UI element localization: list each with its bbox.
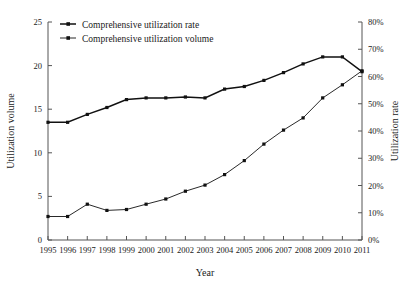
x-tick-label: 2005: [236, 245, 253, 255]
data-point: [243, 85, 246, 88]
data-point: [360, 69, 363, 72]
data-point: [145, 96, 148, 99]
data-point: [145, 203, 148, 206]
data-point: [243, 159, 246, 162]
x-tick-label: 2007: [275, 245, 292, 255]
y-tick-label-left: 10: [34, 148, 43, 158]
data-point: [223, 173, 226, 176]
data-point: [282, 129, 285, 132]
data-point: [262, 79, 265, 82]
x-tick-label: 2000: [138, 245, 155, 255]
x-tick-label: 2010: [334, 245, 351, 255]
x-tick-label: 1998: [98, 245, 115, 255]
y-tick-label-right: 0%: [368, 235, 379, 245]
x-tick-label: 2006: [255, 245, 272, 255]
data-point: [164, 197, 167, 200]
data-point: [66, 215, 69, 218]
y-tick-label-right: 40%: [368, 126, 384, 136]
data-point: [341, 55, 344, 58]
legend-marker-1: [66, 36, 70, 40]
y-tick-label-left: 20: [34, 61, 43, 71]
data-point: [105, 209, 108, 212]
data-point: [203, 184, 206, 187]
y-tick-label-left: 0: [38, 235, 42, 245]
y-tick-label-right: 50%: [368, 99, 384, 109]
x-tick-label: 2009: [314, 245, 331, 255]
x-tick-label: 2002: [177, 245, 194, 255]
data-point: [125, 98, 128, 101]
data-point: [223, 88, 226, 91]
data-point: [86, 113, 89, 116]
series-line-0: [48, 57, 362, 122]
x-tick-label: 2004: [216, 245, 234, 255]
data-point: [46, 121, 49, 124]
y-tick-label-left: 15: [34, 104, 43, 114]
series-0: [46, 55, 363, 124]
data-point: [46, 215, 49, 218]
series-1: [46, 69, 363, 218]
chart-legend: Comprehensive utilization rateComprehens…: [60, 20, 213, 44]
y-tick-label-right: 20%: [368, 181, 384, 191]
x-tick-label: 2008: [295, 245, 312, 255]
data-point: [184, 95, 187, 98]
x-tick-label: 2001: [157, 245, 174, 255]
chart-series-layer: [46, 55, 363, 218]
y-axis-title-right: Utilization rate: [389, 100, 400, 161]
x-tick-label: 1999: [118, 245, 135, 255]
y-tick-label-left: 25: [34, 17, 43, 27]
data-point: [105, 106, 108, 109]
x-tick-label: 1996: [59, 245, 76, 255]
line-chart: 05101520250%10%20%30%40%50%60%70%80%1995…: [0, 0, 409, 286]
y-tick-label-right: 80%: [368, 17, 384, 27]
data-point: [341, 83, 344, 86]
data-point: [262, 143, 265, 146]
x-tick-label: 1995: [40, 245, 57, 255]
data-point: [66, 121, 69, 124]
chart-axes: 05101520250%10%20%30%40%50%60%70%80%1995…: [34, 17, 384, 255]
series-line-1: [48, 71, 362, 217]
data-point: [203, 96, 206, 99]
data-point: [321, 55, 324, 58]
data-point: [125, 208, 128, 211]
legend-label-1: Comprehensive utilization volume: [82, 34, 213, 44]
y-tick-label-right: 30%: [368, 153, 384, 163]
legend-label-0: Comprehensive utilization rate: [82, 20, 199, 30]
y-tick-label-left: 5: [38, 191, 42, 201]
chart-figure: 05101520250%10%20%30%40%50%60%70%80%1995…: [0, 0, 409, 286]
x-tick-label: 2003: [197, 245, 214, 255]
y-tick-label-right: 70%: [368, 44, 384, 54]
x-tick-label: 1997: [79, 245, 96, 255]
data-point: [164, 96, 167, 99]
data-point: [86, 203, 89, 206]
data-point: [184, 190, 187, 193]
y-axis-title-left: Utilization volume: [5, 93, 16, 169]
x-axis-title: Year: [196, 267, 215, 278]
y-tick-label-right: 60%: [368, 72, 384, 82]
data-point: [302, 116, 305, 119]
legend-marker-0: [66, 22, 70, 26]
data-point: [321, 96, 324, 99]
y-tick-label-right: 10%: [368, 208, 384, 218]
data-point: [302, 62, 305, 65]
data-point: [282, 71, 285, 74]
x-tick-label: 2011: [354, 245, 371, 255]
